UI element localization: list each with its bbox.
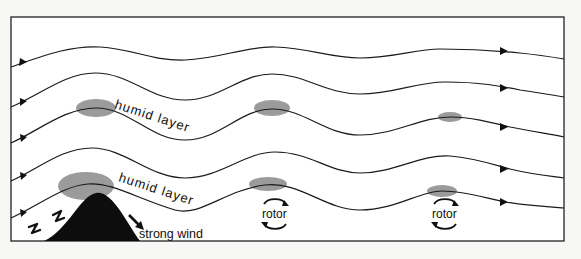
cloud-lower-2 (249, 177, 287, 191)
strong-wind-label: strong wind (139, 227, 203, 241)
cloud-upper-2 (254, 100, 290, 116)
lee-wave-diagram: humid layer humid layer rotor rotor stro… (0, 0, 581, 259)
rotor-label-1: rotor (262, 207, 287, 221)
rotor-label-2: rotor (432, 207, 457, 221)
